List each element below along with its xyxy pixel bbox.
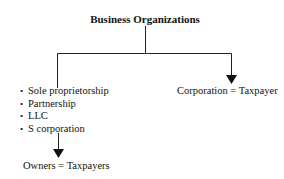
- diagram-title: Business Organizations: [0, 13, 284, 25]
- list-item: Partnership: [20, 98, 109, 111]
- list-item: LLC: [20, 110, 109, 123]
- down-arrowhead-icon: [53, 149, 64, 158]
- right-arrowhead-icon: [226, 75, 237, 84]
- owners-node: Owners = Taxpayers: [23, 160, 110, 171]
- corporation-node: Corporation = Taxpayer: [177, 85, 278, 96]
- pass-through-entity-list: Sole proprietorship Partnership LLC S co…: [20, 85, 109, 135]
- list-item: S corporation: [20, 123, 109, 136]
- list-item: Sole proprietorship: [20, 85, 109, 98]
